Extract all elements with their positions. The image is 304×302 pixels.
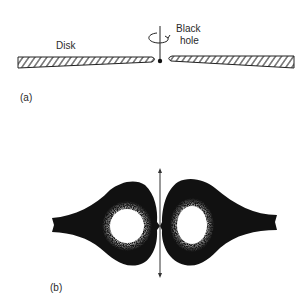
panel-a-label: (a) — [20, 92, 32, 103]
black-hole-label-line2: hole — [180, 35, 199, 46]
panel-b-figure — [52, 168, 277, 278]
disk-label: Disk — [56, 40, 75, 51]
black-hole-dot — [158, 59, 162, 63]
panel-b-label: (b) — [50, 282, 62, 293]
rotation-arrow-icon — [149, 33, 168, 43]
diagram-canvas: Disk Black hole (a) (b) — [0, 0, 304, 302]
disk-right — [169, 56, 294, 68]
diagram-graphic — [0, 0, 304, 302]
disk-left — [18, 57, 155, 68]
black-hole-label-line1: Black — [176, 23, 200, 34]
